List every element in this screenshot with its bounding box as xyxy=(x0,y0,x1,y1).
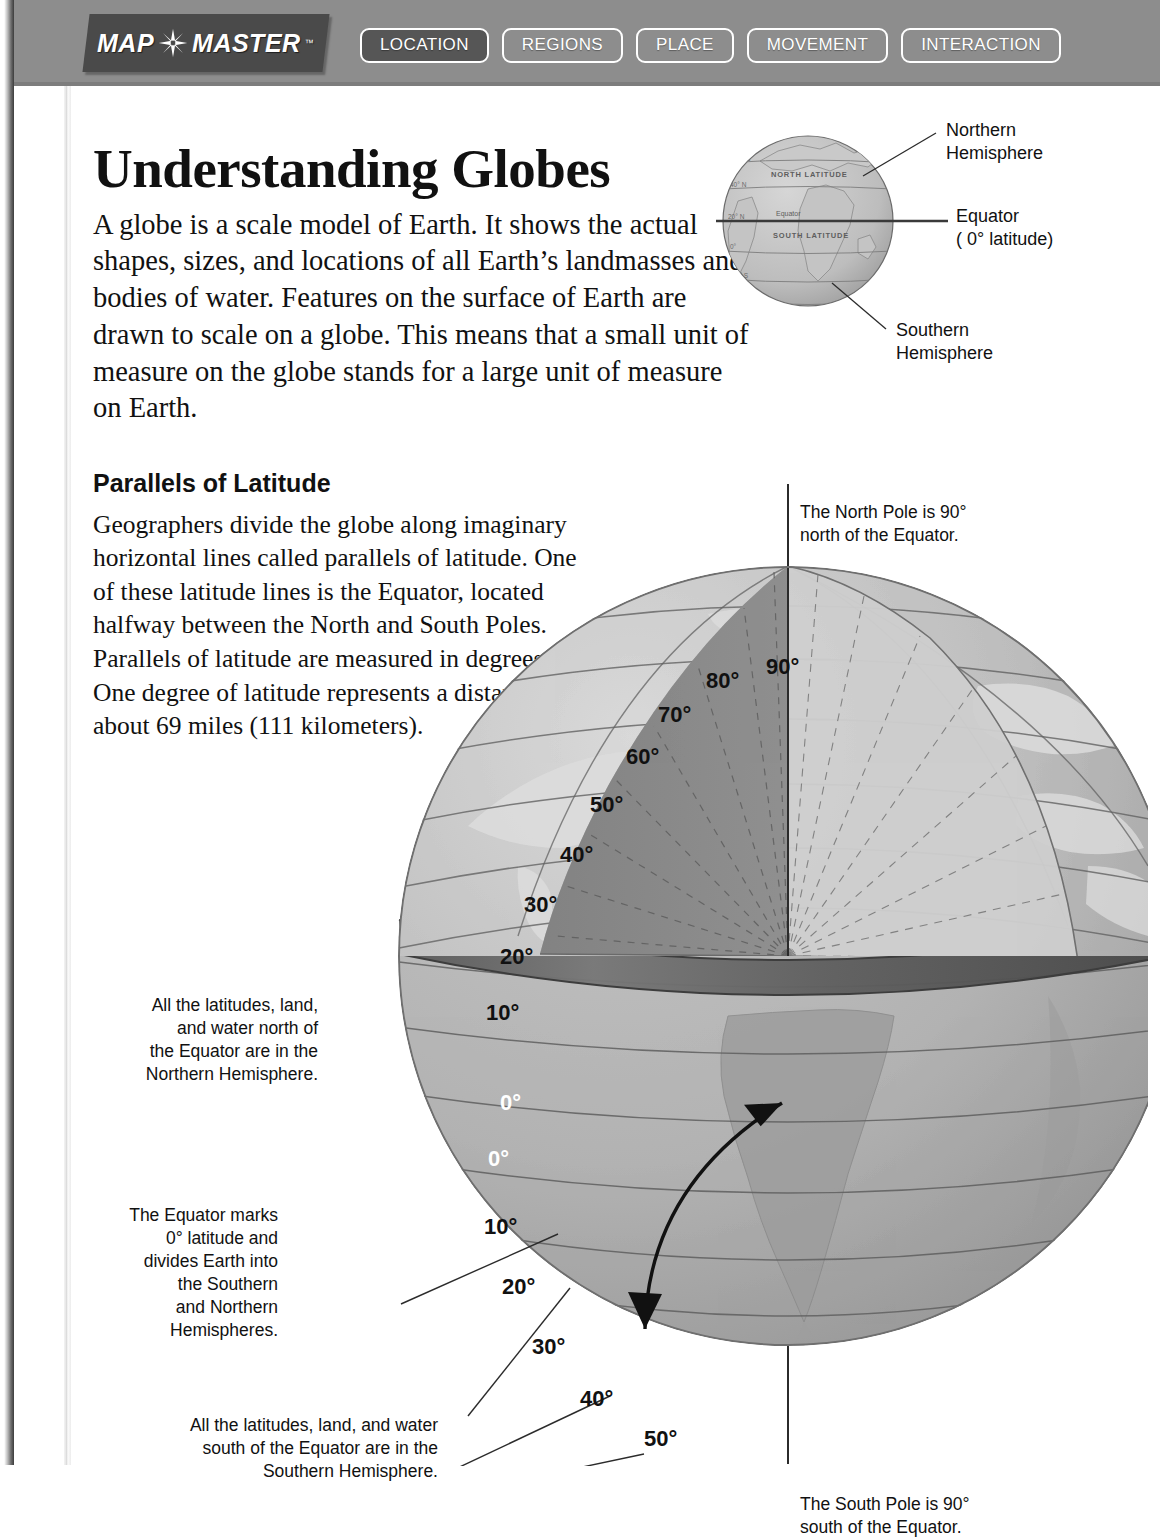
callout-equator: The Equator marks 0° latitude and divide… xyxy=(98,1204,278,1343)
svg-text:60° N: 60° N xyxy=(734,155,751,162)
svg-text:0°: 0° xyxy=(730,243,737,250)
svg-text:SOUTH LATITUDE: SOUTH LATITUDE xyxy=(773,231,849,240)
degree-label-n30: 30° xyxy=(524,892,557,918)
tab-location[interactable]: LOCATION xyxy=(360,28,489,63)
page-gutter xyxy=(64,86,71,1465)
callout-southern-hemisphere: All the latitudes, land, and water south… xyxy=(98,1414,438,1483)
compass-rose-star-icon xyxy=(159,28,189,58)
svg-text:20° N: 20° N xyxy=(728,213,745,220)
degree-label-s20: 20° xyxy=(502,1274,535,1300)
degree-label-n90: 90° xyxy=(766,654,799,680)
tab-place[interactable]: PLACE xyxy=(636,28,734,63)
page-left-edge xyxy=(0,0,14,1465)
logo-trademark: ™ xyxy=(305,38,315,48)
degree-label-n50: 50° xyxy=(590,792,623,818)
main-globe-figure: The North Pole is 90° north of the Equat… xyxy=(88,396,1148,1456)
south-pole-note: The South Pole is 90° south of the Equat… xyxy=(800,1493,969,1539)
north-pole-note: The North Pole is 90° north of the Equat… xyxy=(800,501,967,547)
svg-text:60° S: 60° S xyxy=(744,311,761,318)
header-nav-tabs: LOCATION REGIONS PLACE MOVEMENT INTERACT… xyxy=(360,28,1061,63)
degree-label-n10: 10° xyxy=(486,1000,519,1026)
degree-label-n60: 60° xyxy=(626,744,659,770)
degree-label-s40: 40° xyxy=(580,1386,613,1412)
inset-label-southern-hemisphere: Southern Hemisphere xyxy=(896,319,993,364)
inset-globe-figure: 60° N 40° N 20° N 0° 20° S 40° S 60° S N… xyxy=(708,101,1138,381)
degree-label-n70: 70° xyxy=(658,702,691,728)
callout-northern-hemisphere: All the latitudes, land, and water north… xyxy=(98,994,318,1086)
intro-paragraph: A globe is a scale model of Earth. It sh… xyxy=(93,207,753,428)
degree-label-equator-bottom: 0° xyxy=(488,1146,509,1172)
degree-label-n40: 40° xyxy=(560,842,593,868)
svg-text:Equator: Equator xyxy=(776,210,801,218)
tab-regions[interactable]: REGIONS xyxy=(502,28,623,63)
logo-text-map: MAP xyxy=(97,29,154,58)
svg-text:NORTH LATITUDE: NORTH LATITUDE xyxy=(771,170,847,179)
tab-movement[interactable]: MOVEMENT xyxy=(747,28,888,63)
logo-text-master: MASTER xyxy=(193,29,302,58)
degree-label-s50: 50° xyxy=(644,1426,677,1452)
degree-label-n80: 80° xyxy=(706,668,739,694)
svg-text:40° N: 40° N xyxy=(730,181,747,188)
inset-label-equator: Equator ( 0° latitude) xyxy=(956,205,1053,250)
degree-label-s30: 30° xyxy=(532,1334,565,1360)
degree-label-s10: 10° xyxy=(484,1214,517,1240)
page-title: Understanding Globes xyxy=(93,141,610,196)
degree-label-equator-top: 0° xyxy=(500,1090,521,1116)
map-master-logo[interactable]: MAP xyxy=(82,14,329,72)
inset-label-northern-hemisphere: Northern Hemisphere xyxy=(946,119,1043,164)
map-master-header-bar: MAP xyxy=(14,0,1160,86)
svg-text:40° S: 40° S xyxy=(734,294,751,301)
tab-interaction[interactable]: INTERACTION xyxy=(901,28,1061,63)
page-content: Understanding Globes A globe is a scale … xyxy=(88,96,1148,1456)
degree-label-n20: 20° xyxy=(500,944,533,970)
